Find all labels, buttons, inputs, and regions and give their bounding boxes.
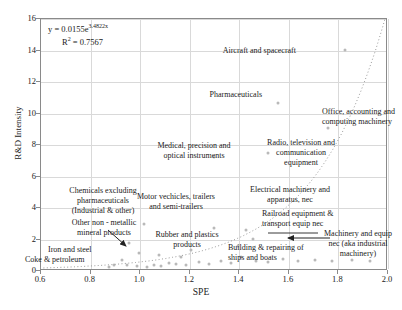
- r-squared-value: = 0.7567: [73, 37, 103, 47]
- label-pharmaceuticals: Pharmaceuticals: [172, 90, 262, 100]
- label-coke: Coke & petroleum: [25, 255, 99, 265]
- x-tick-mark: [387, 270, 388, 274]
- y-tick-label: 2: [14, 234, 36, 244]
- label-office: Office, accounting and computing machine…: [322, 107, 402, 127]
- x-tick-mark: [337, 270, 338, 274]
- data-point-unlabeled: [207, 262, 210, 265]
- data-point: [252, 238, 255, 241]
- x-tick-mark: [238, 270, 239, 274]
- x-tick-label: 2.0: [372, 274, 402, 284]
- chart-container: 0246810121416 0.60.81.01.21.41.61.82.0 R…: [0, 0, 402, 310]
- y-tick-label: 12: [14, 76, 36, 86]
- r-squared-superscript: 2: [68, 36, 71, 42]
- data-point-unlabeled: [351, 259, 354, 262]
- equation-exponent: 3.4822x: [88, 23, 108, 29]
- label-iron: Iron and steel: [48, 245, 118, 255]
- x-tick-label: 1.2: [174, 274, 204, 284]
- data-point: [138, 252, 141, 255]
- label-electrical: Electrical machinery and apparatus, nec: [238, 185, 342, 205]
- data-point-unlabeled: [180, 256, 183, 259]
- data-point: [326, 127, 329, 130]
- data-point-unlabeled: [167, 261, 170, 264]
- label-radio: Radio, television and communication equi…: [259, 138, 343, 167]
- label-ships: Building & repairing of ships and boats: [228, 243, 320, 263]
- label-rubber: Rubber and plastics products: [141, 230, 233, 250]
- data-point: [276, 102, 279, 105]
- data-point-unlabeled: [368, 259, 371, 262]
- data-point-unlabeled: [135, 264, 138, 267]
- y-tick-mark: [36, 81, 40, 82]
- y-tick-label: 14: [14, 45, 36, 55]
- y-tick-mark: [36, 239, 40, 240]
- x-tick-label: 0.8: [75, 274, 105, 284]
- data-point-unlabeled: [145, 265, 148, 268]
- x-tick-mark: [90, 270, 91, 274]
- data-point-unlabeled: [185, 264, 188, 267]
- label-medical: Medical, precision and optical instrumen…: [143, 141, 245, 161]
- label-nonmetallic: Other non - metallic mineral products: [56, 218, 152, 238]
- label-railroad: Railroad equipment & transport equip nec: [262, 209, 358, 229]
- label-aircraft: Aircraft and spacecraft: [206, 46, 296, 56]
- y-tick-mark: [36, 176, 40, 177]
- data-point-unlabeled: [125, 264, 128, 267]
- x-tick-label: 1.8: [322, 274, 352, 284]
- label-motor: Motor vechicles, trailers and semi-trail…: [123, 192, 229, 212]
- y-tick-mark: [36, 144, 40, 145]
- equation-text: y = 0.0155e: [48, 24, 88, 34]
- label-machinery: Machinery and equip nec (aka industrial …: [320, 229, 396, 258]
- equation-line: y = 0.0155e3.4822x: [48, 22, 108, 35]
- y-tick-mark: [36, 50, 40, 51]
- x-tick-mark: [288, 270, 289, 274]
- data-point-unlabeled: [157, 254, 160, 257]
- data-point-unlabeled: [128, 242, 131, 245]
- data-point: [343, 48, 346, 51]
- data-point: [113, 264, 116, 267]
- x-tick-label: 0.6: [25, 274, 55, 284]
- y-tick-mark: [36, 18, 40, 19]
- x-tick-label: 1.4: [223, 274, 253, 284]
- x-tick-label: 1.0: [124, 274, 154, 284]
- data-point: [120, 258, 123, 261]
- y-tick-label: 16: [14, 13, 36, 23]
- x-tick-mark: [40, 270, 41, 274]
- data-point-unlabeled: [108, 265, 111, 268]
- y-tick-label: 4: [14, 202, 36, 212]
- y-tick-mark: [36, 207, 40, 208]
- data-point: [244, 228, 247, 231]
- x-tick-mark: [189, 270, 190, 274]
- data-point-unlabeled: [153, 263, 156, 266]
- data-point-unlabeled: [175, 263, 178, 266]
- r-squared-line: R2 = 0.7567: [48, 35, 108, 48]
- data-point-unlabeled: [219, 260, 222, 263]
- x-axis-title: SPE: [0, 287, 402, 297]
- x-tick-mark: [139, 270, 140, 274]
- data-point-unlabeled: [160, 264, 163, 267]
- y-axis-title: R&D Intensity: [13, 88, 23, 178]
- data-point-unlabeled: [331, 260, 334, 263]
- x-tick-label: 1.6: [273, 274, 303, 284]
- y-tick-mark: [36, 113, 40, 114]
- regression-equation: y = 0.0155e3.4822x R2 = 0.7567: [48, 22, 108, 48]
- data-point-unlabeled: [197, 261, 200, 264]
